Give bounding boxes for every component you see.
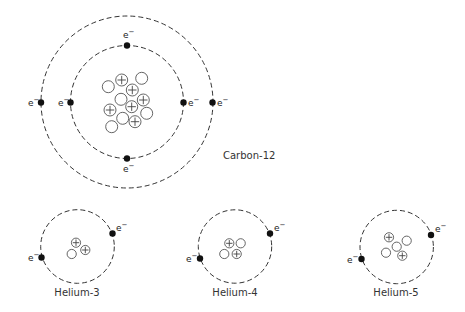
electron-charge: − [34, 96, 40, 104]
orbit-shell-1 [71, 46, 184, 159]
neutron-icon [381, 248, 390, 257]
atom-label: Helium-5 [373, 287, 418, 298]
electron-dot-icon [109, 230, 115, 236]
electron-charge: − [122, 221, 128, 229]
electron-label: e− [116, 221, 128, 233]
neutron-circle [106, 121, 118, 133]
neutron-icon [392, 242, 401, 251]
electron-label: e− [217, 96, 229, 108]
atom-carbon-12: e−e−e−e−e−e−Carbon-12 [28, 16, 275, 188]
neutron-icon [115, 93, 127, 105]
proton-icon [398, 251, 407, 260]
nucleus [381, 233, 411, 261]
atom-diagram: e−e−e−e−e−e−Carbon-12e−e−Helium-3e−e−Hel… [0, 0, 465, 312]
proton-icon [71, 238, 80, 247]
electron-charge: − [194, 96, 200, 104]
neutron-circle [402, 236, 411, 245]
proton-icon [81, 245, 90, 254]
neutron-icon [136, 72, 148, 84]
electron-label: e− [28, 251, 40, 263]
electron: e− [109, 221, 127, 237]
proton-icon [225, 239, 234, 248]
electron-charge: − [280, 221, 286, 229]
electron: e− [28, 251, 45, 263]
nucleus [102, 72, 152, 132]
atom-helium-3: e−e−Helium-3 [28, 210, 128, 298]
neutron-icon [106, 121, 118, 133]
electron-dot-icon [124, 42, 130, 48]
neutron-icon [67, 249, 76, 258]
electron-label: e− [274, 221, 286, 233]
nucleus [67, 238, 90, 259]
atom-helium-4: e−e−Helium-4 [186, 210, 286, 298]
electron-charge: − [64, 96, 70, 104]
electron-charge: − [353, 253, 359, 261]
electron-dot-icon [428, 232, 434, 238]
neutron-circle [220, 249, 229, 258]
electron-label: e− [188, 96, 200, 108]
electron-charge: − [129, 28, 135, 36]
electron: e− [267, 221, 286, 237]
neutron-icon [141, 107, 153, 119]
atom-helium-5: e−e−Helium-5 [347, 210, 447, 298]
electron-charge: − [223, 96, 229, 104]
neutron-circle [117, 112, 129, 124]
proton-icon [232, 249, 241, 258]
electron-dot-icon [197, 255, 203, 261]
electron: e− [58, 96, 74, 108]
electron-charge: − [441, 222, 447, 230]
neutron-icon [117, 112, 129, 124]
orbit-shell-1 [198, 210, 271, 283]
neutron-icon [402, 236, 411, 245]
neutron-circle [67, 249, 76, 258]
electron-label: e− [123, 162, 135, 174]
electron-dot-icon [180, 99, 186, 105]
neutron-icon [236, 239, 245, 248]
proton-icon [126, 84, 138, 96]
electron: e− [28, 96, 44, 108]
electron-dot-icon [124, 155, 130, 161]
electron-label: e− [186, 252, 198, 264]
electron-label: e− [123, 28, 135, 40]
electron-charge: − [34, 251, 40, 259]
electron: e− [186, 252, 203, 264]
nucleus [220, 239, 246, 259]
neutron-circle [236, 239, 245, 248]
proton-icon [104, 104, 116, 116]
neutron-circle [141, 107, 153, 119]
atoms-layer: e−e−e−e−e−e−Carbon-12e−e−Helium-3e−e−Hel… [28, 16, 447, 298]
atom-label: Carbon-12 [223, 150, 275, 161]
neutron-circle [136, 72, 148, 84]
proton-icon [129, 116, 141, 128]
neutron-circle [381, 248, 390, 257]
electron: e− [347, 253, 365, 265]
electron-charge: − [129, 162, 135, 170]
neutron-circle [102, 81, 114, 93]
neutron-circle [392, 242, 401, 251]
electron-dot-icon [358, 256, 364, 262]
electron-label: e− [435, 222, 447, 234]
proton-icon [116, 74, 128, 86]
proton-icon [126, 101, 138, 113]
electron-label: e− [58, 96, 70, 108]
neutron-circle [115, 93, 127, 105]
atom-label: Helium-3 [54, 287, 99, 298]
electron-label: e− [347, 253, 359, 265]
electron-dot-icon [209, 99, 215, 105]
atom-label: Helium-4 [212, 287, 257, 298]
electron: e− [123, 28, 135, 49]
electron-charge: − [192, 252, 198, 260]
electron-dot-icon [267, 230, 273, 236]
proton-icon [137, 94, 149, 106]
electron-label: e− [28, 96, 40, 108]
neutron-icon [220, 249, 229, 258]
electron: e− [209, 96, 228, 108]
neutron-icon [102, 81, 114, 93]
proton-icon [384, 233, 393, 242]
electron: e− [428, 222, 447, 238]
